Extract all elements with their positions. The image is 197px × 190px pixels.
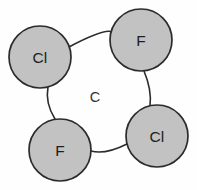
- bond-cl-bottomright-to-f-bottomleft: [91, 144, 127, 152]
- atom-label-cl-bottom-right: Cl: [149, 128, 164, 145]
- center-atom-label-carbon: C: [90, 89, 100, 105]
- atom-f-top-right[interactable]: F: [110, 9, 172, 71]
- bond-cl-topleft-to-f-topright: [69, 31, 112, 47]
- molecule-diagram: C Cl F Cl F: [0, 0, 197, 190]
- atom-cl-bottom-right[interactable]: Cl: [126, 105, 188, 167]
- atom-f-bottom-left[interactable]: F: [29, 119, 91, 181]
- molecule-svg: C Cl F Cl F: [0, 0, 197, 190]
- atom-label-f-top-right: F: [136, 32, 146, 49]
- atom-label-cl-top-left: Cl: [32, 49, 47, 66]
- bond-f-topright-to-cl-bottomright: [144, 71, 150, 106]
- atom-label-f-bottom-left: F: [55, 142, 65, 159]
- bond-f-bottomleft-to-cl-topleft: [47, 87, 55, 119]
- atom-cl-top-left[interactable]: Cl: [9, 26, 71, 88]
